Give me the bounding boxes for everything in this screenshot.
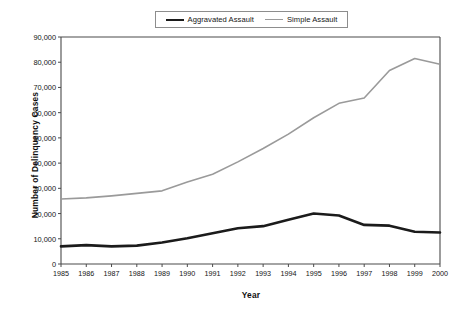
series-line-simple-assault xyxy=(61,58,440,198)
plot-area xyxy=(0,0,452,310)
axis-frame xyxy=(61,37,440,264)
axis-tick-marks xyxy=(58,37,440,267)
series-line-aggravated-assault xyxy=(61,214,440,247)
chart-figure: Aggravated Assault Simple Assault Number… xyxy=(0,0,452,310)
data-series-lines xyxy=(61,58,440,246)
